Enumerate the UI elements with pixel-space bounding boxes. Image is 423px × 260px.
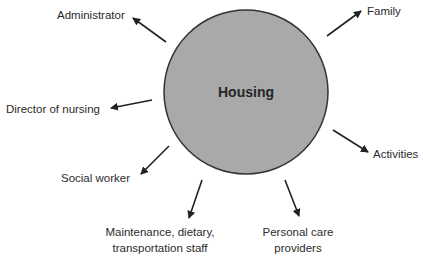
diagram-graphics [0,0,423,260]
spoke-label-social-worker: Social worker [61,170,130,186]
spoke-label-maintenance: Maintenance, dietary, transportation sta… [100,224,220,256]
spoke-label-personal-care: Personal care providers [258,224,338,256]
arrow-maintenance [189,180,202,218]
spoke-label-activities: Activities [373,146,418,162]
arrow-family [327,11,361,36]
spoke-label-personal-care-line1: Personal care [258,224,338,240]
diagram-canvas: Housing Administrator Family Director of… [0,0,423,260]
spoke-label-family: Family [367,3,401,19]
arrow-administrator [133,18,166,42]
spoke-label-personal-care-line2: providers [258,240,338,256]
spoke-label-maintenance-line1: Maintenance, dietary, [100,224,220,240]
spoke-label-maintenance-line2: transportation staff [100,240,220,256]
arrow-activities [333,130,368,152]
arrow-social-worker [141,146,169,174]
arrow-director-of-nursing [111,100,152,108]
hub-label: Housing [218,84,274,100]
arrow-personal-care [285,180,299,216]
spoke-label-director-of-nursing: Director of nursing [6,101,100,117]
spoke-label-administrator: Administrator [57,7,125,23]
